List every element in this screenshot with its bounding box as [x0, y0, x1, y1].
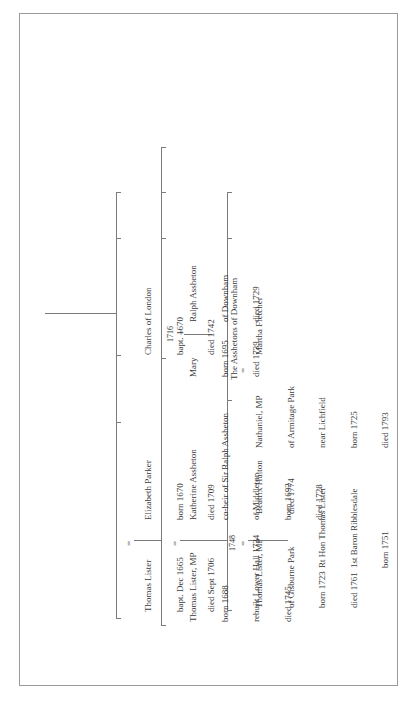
- person-martha-fletcher: Martha Fletcher: [233, 297, 275, 355]
- gen2-tick: [161, 192, 166, 193]
- marriage-symbol: =: [124, 541, 134, 546]
- gen1-tick: [116, 422, 121, 423]
- marriage-symbol: =: [238, 368, 248, 373]
- marriage-symbol: =: [238, 541, 248, 546]
- marriage-year: 1716: [166, 326, 175, 342]
- gen2-tick: [161, 358, 166, 359]
- gen1-tick: [116, 192, 121, 193]
- gen2-tick: [161, 147, 166, 148]
- gen1-tick: [116, 355, 121, 356]
- marriage-symbol: =: [176, 330, 186, 335]
- gen1-tick: [116, 618, 121, 619]
- gen1-line: [116, 192, 117, 618]
- gen1-marriage-line: [134, 540, 161, 541]
- gen3-tick: [227, 192, 232, 193]
- person-rt-hon-thomas-lister: Rt Hon Thomas Lister 1st Baron Ribblesda…: [296, 487, 401, 568]
- gen1-tick: [116, 238, 121, 239]
- person-nathaniel-mp: Nathaniel, MP of Armitage Park near Lich…: [233, 386, 401, 448]
- gen3-tick: [227, 238, 232, 239]
- marriage-symbol: =: [170, 541, 180, 546]
- gen2-tick: [161, 625, 166, 626]
- ancestor-connector: [45, 313, 116, 314]
- gen3-tick: [227, 400, 232, 401]
- marriage-year: 1748: [228, 535, 237, 551]
- gen2-tick: [161, 238, 166, 239]
- gen2-line: [161, 147, 162, 625]
